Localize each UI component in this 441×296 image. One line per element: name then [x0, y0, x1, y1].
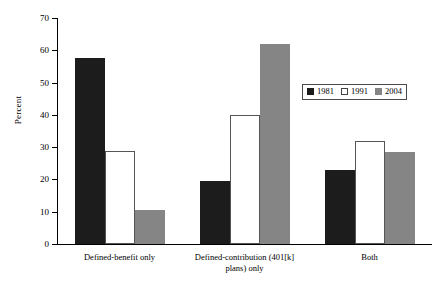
bar-1991-1 — [105, 151, 135, 244]
y-axis-tick-mark — [52, 50, 57, 51]
bar-chart: Percent 010203040506070 Defined-benefit … — [0, 0, 441, 296]
y-axis-line — [57, 18, 58, 244]
legend-swatch-icon-1981 — [307, 88, 314, 95]
legend-item-1991: 1991 — [341, 87, 368, 96]
legend-item-2004: 2004 — [375, 87, 402, 96]
bar-group — [200, 18, 290, 244]
y-axis-tick-mark — [52, 179, 57, 180]
legend-swatch-icon-2004 — [375, 88, 382, 95]
bar-group — [325, 18, 415, 244]
legend-label: 1991 — [351, 87, 368, 96]
x-axis-line — [57, 244, 432, 245]
y-axis-tick-label: 40 — [40, 110, 49, 119]
bar-1981-1 — [75, 58, 105, 244]
bar-2004-2 — [260, 44, 290, 244]
y-axis-tick-mark — [52, 83, 57, 84]
y-axis-tick-label: 30 — [40, 143, 49, 152]
y-axis-tick-label: 20 — [40, 175, 49, 184]
y-axis-tick-mark — [52, 18, 57, 19]
bar-1991-2 — [230, 115, 260, 244]
bar-2004-1 — [135, 210, 165, 244]
y-axis-tick-label: 10 — [40, 207, 49, 216]
x-axis-label-3: Both — [290, 252, 441, 263]
bar-1991-3 — [355, 141, 385, 244]
bar-1981-2 — [200, 181, 230, 244]
y-axis-tick-label: 60 — [40, 46, 49, 55]
bar-1981-3 — [325, 170, 355, 244]
y-axis-tick-label: 70 — [40, 14, 49, 23]
legend-swatch-icon-1991 — [341, 88, 348, 95]
legend-label: 1981 — [317, 87, 334, 96]
legend-label: 2004 — [385, 87, 402, 96]
plot-area: 010203040506070 — [57, 18, 432, 244]
legend: 198119912004 — [302, 84, 407, 100]
y-axis-tick-mark — [52, 244, 57, 245]
y-axis-tick-mark — [52, 147, 57, 148]
y-axis-title: Percent — [13, 80, 23, 140]
y-axis-tick-mark — [52, 115, 57, 116]
y-axis-tick-mark — [52, 212, 57, 213]
y-axis-tick-label: 0 — [45, 240, 50, 249]
bar-group — [75, 18, 165, 244]
bar-2004-3 — [385, 152, 415, 244]
legend-item-1981: 1981 — [307, 87, 334, 96]
y-axis-tick-label: 50 — [40, 78, 49, 87]
